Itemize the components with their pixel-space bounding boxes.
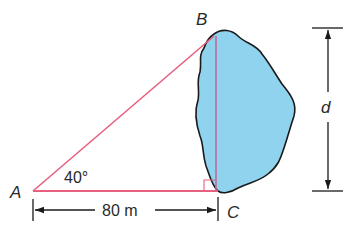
- diagram-canvas: B A C 40° 80 m d: [0, 0, 347, 225]
- point-label-a: A: [9, 183, 21, 202]
- unknown-d-label: d: [321, 98, 331, 117]
- diagram-svg: B A C 40° 80 m d: [0, 0, 347, 225]
- hypotenuse-AB: [33, 36, 214, 191]
- base-length-label: 80 m: [102, 202, 138, 219]
- point-label-b: B: [196, 10, 207, 29]
- lake-shape: [196, 30, 295, 192]
- angle-label: 40°: [64, 169, 88, 186]
- point-label-c: C: [227, 203, 240, 222]
